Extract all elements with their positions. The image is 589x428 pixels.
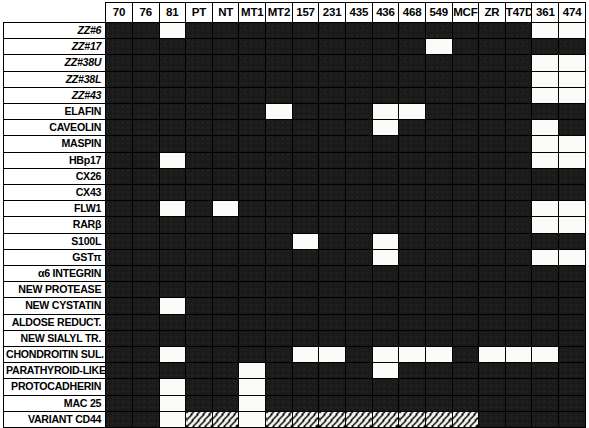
matrix-cell bbox=[319, 71, 346, 87]
matrix-cell bbox=[319, 104, 346, 120]
matrix-cell bbox=[399, 233, 426, 249]
matrix-cell bbox=[292, 201, 319, 217]
row-header-label: MASPIN bbox=[4, 136, 106, 152]
matrix-cell bbox=[319, 249, 346, 265]
matrix-cell bbox=[345, 217, 372, 233]
matrix-cell bbox=[266, 152, 293, 168]
matrix-row: MASPIN bbox=[4, 136, 586, 152]
matrix-cell bbox=[532, 363, 559, 379]
matrix-cell bbox=[452, 347, 479, 363]
matrix-cell bbox=[372, 201, 399, 217]
matrix-cell bbox=[505, 55, 532, 71]
matrix-cell bbox=[212, 233, 239, 249]
matrix-cell bbox=[452, 217, 479, 233]
matrix-cell bbox=[292, 152, 319, 168]
matrix-cell bbox=[399, 282, 426, 298]
matrix-cell bbox=[452, 314, 479, 330]
column-header-row: 707681PTNTMT1MT2157231435436468549MCFZRT… bbox=[4, 3, 586, 23]
matrix-cell bbox=[132, 71, 159, 87]
matrix-row: S100L bbox=[4, 233, 586, 249]
matrix-cell bbox=[266, 55, 293, 71]
matrix-cell bbox=[425, 104, 452, 120]
matrix-cell bbox=[292, 282, 319, 298]
matrix-cell bbox=[106, 55, 133, 71]
matrix-cell bbox=[479, 55, 506, 71]
matrix-cell bbox=[106, 104, 133, 120]
matrix-cell bbox=[345, 185, 372, 201]
matrix-cell bbox=[532, 249, 559, 265]
matrix-cell bbox=[212, 249, 239, 265]
matrix-cell bbox=[319, 347, 346, 363]
matrix-cell bbox=[266, 185, 293, 201]
matrix-cell bbox=[239, 298, 266, 314]
row-header-label: ZZ#6 bbox=[4, 23, 106, 39]
matrix-cell bbox=[239, 347, 266, 363]
matrix-cell bbox=[559, 201, 586, 217]
matrix-cell bbox=[292, 136, 319, 152]
matrix-cell bbox=[345, 298, 372, 314]
matrix-row: MAC 25 bbox=[4, 395, 586, 411]
matrix-cell bbox=[559, 249, 586, 265]
matrix-cell bbox=[505, 330, 532, 346]
matrix-cell bbox=[159, 266, 186, 282]
matrix-cell bbox=[559, 395, 586, 411]
matrix-cell bbox=[266, 120, 293, 136]
matrix-cell bbox=[372, 55, 399, 71]
matrix-cell bbox=[212, 168, 239, 184]
matrix-cell bbox=[292, 23, 319, 39]
matrix-cell bbox=[319, 217, 346, 233]
matrix-cell bbox=[159, 23, 186, 39]
matrix-cell bbox=[425, 330, 452, 346]
matrix-cell bbox=[425, 217, 452, 233]
matrix-cell bbox=[399, 363, 426, 379]
matrix-cell bbox=[532, 217, 559, 233]
matrix-cell bbox=[372, 411, 399, 427]
matrix-cell bbox=[559, 379, 586, 395]
matrix-cell bbox=[505, 363, 532, 379]
matrix-cell bbox=[399, 395, 426, 411]
matrix-cell bbox=[505, 282, 532, 298]
matrix-cell bbox=[239, 217, 266, 233]
matrix-cell bbox=[186, 23, 213, 39]
matrix-cell bbox=[186, 217, 213, 233]
matrix-cell bbox=[159, 363, 186, 379]
matrix-cell bbox=[559, 233, 586, 249]
row-header-label: S100L bbox=[4, 233, 106, 249]
matrix-cell bbox=[559, 217, 586, 233]
matrix-cell bbox=[106, 217, 133, 233]
matrix-cell bbox=[106, 87, 133, 103]
matrix-cell bbox=[425, 152, 452, 168]
matrix-cell bbox=[159, 185, 186, 201]
matrix-cell bbox=[559, 39, 586, 55]
matrix-cell bbox=[239, 87, 266, 103]
column-header-nt: NT bbox=[212, 3, 239, 23]
matrix-cell bbox=[212, 282, 239, 298]
matrix-row: CHONDROITIN SUL. bbox=[4, 347, 586, 363]
matrix-cell bbox=[319, 55, 346, 71]
matrix-cell bbox=[559, 23, 586, 39]
matrix-cell bbox=[532, 23, 559, 39]
matrix-cell bbox=[532, 298, 559, 314]
matrix-cell bbox=[479, 136, 506, 152]
matrix-cell bbox=[372, 168, 399, 184]
matrix-cell bbox=[479, 39, 506, 55]
matrix-row: FLW1 bbox=[4, 201, 586, 217]
matrix-cell bbox=[106, 330, 133, 346]
matrix-cell bbox=[132, 168, 159, 184]
row-header-label: ZZ#17 bbox=[4, 39, 106, 55]
matrix-cell bbox=[319, 185, 346, 201]
matrix-cell bbox=[132, 136, 159, 152]
matrix-cell bbox=[399, 201, 426, 217]
matrix-cell bbox=[106, 249, 133, 265]
matrix-cell bbox=[372, 120, 399, 136]
matrix-cell bbox=[345, 249, 372, 265]
matrix-cell bbox=[425, 120, 452, 136]
matrix-cell bbox=[345, 152, 372, 168]
matrix-cell bbox=[266, 282, 293, 298]
row-header-label: PARATHYROID-LIKE bbox=[4, 363, 106, 379]
matrix-cell bbox=[292, 249, 319, 265]
matrix-cell bbox=[399, 217, 426, 233]
matrix-cell bbox=[292, 347, 319, 363]
row-header-label: CAVEOLIN bbox=[4, 120, 106, 136]
matrix-cell bbox=[292, 120, 319, 136]
